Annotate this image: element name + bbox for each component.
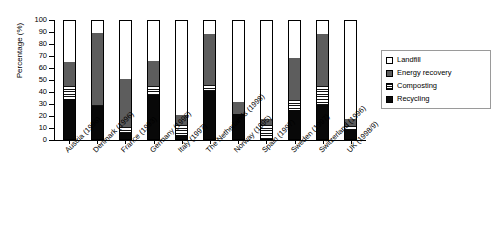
legend-label: Recycling: [397, 95, 430, 103]
bar-segment-landfill: [233, 21, 244, 102]
bar-segment-recycling: [120, 133, 131, 139]
stacked-bar[interactable]: [232, 20, 245, 140]
bar-segment-landfill: [204, 21, 215, 34]
bar-column[interactable]: [175, 20, 188, 140]
x-tick-mark: [351, 140, 352, 144]
legend-label: Landfill: [397, 56, 421, 64]
bar-segment-landfill: [64, 21, 75, 62]
stacked-bar[interactable]: [63, 20, 76, 140]
bar-column[interactable]: [91, 20, 104, 140]
legend-swatch-icon: [386, 96, 393, 103]
bar-column[interactable]: [147, 20, 160, 140]
bar-segment-landfill: [148, 21, 159, 61]
y-tick-mark: [49, 32, 54, 33]
y-tick-label: 10: [39, 124, 47, 131]
bar-segment-energy-recovery: [92, 33, 103, 105]
plot-area: [55, 20, 365, 140]
bar-segment-composting: [176, 125, 187, 136]
y-tick-mark: [49, 80, 54, 81]
x-tick-mark: [266, 140, 267, 144]
legend-item[interactable]: Composting: [386, 81, 486, 91]
stacked-bar-chart: Percentage (%) 0102030405060708090100 Au…: [0, 0, 497, 240]
y-tick-mark: [49, 104, 54, 105]
bar-column[interactable]: [63, 20, 76, 140]
bar-segment-landfill: [289, 21, 300, 58]
stacked-bar[interactable]: [175, 20, 188, 140]
bar-segment-energy-recovery: [176, 115, 187, 124]
chart-legend: LandfillEnergy recoveryCompostingRecycli…: [381, 50, 491, 109]
bar-segment-composting: [289, 100, 300, 109]
stacked-bar[interactable]: [91, 20, 104, 140]
bar-segment-composting: [317, 86, 328, 105]
x-tick-mark: [182, 140, 183, 144]
bar-segment-energy-recovery: [317, 34, 328, 86]
bar-group: [55, 20, 365, 140]
bar-segment-recycling: [176, 135, 187, 139]
legend-item[interactable]: Recycling: [386, 94, 486, 104]
x-tick-mark: [295, 140, 296, 144]
y-tick-label: 100: [34, 16, 47, 23]
y-tick-mark: [49, 92, 54, 93]
bar-segment-landfill: [261, 21, 272, 119]
y-tick-label: 50: [39, 76, 47, 83]
bar-segment-recycling: [148, 95, 159, 139]
legend-item[interactable]: Energy recovery: [386, 68, 486, 78]
y-tick-label: 80: [39, 40, 47, 47]
bar-segment-energy-recovery: [120, 79, 131, 127]
x-tick-mark: [97, 140, 98, 144]
y-tick-mark: [49, 20, 54, 21]
y-tick-label: 90: [39, 28, 47, 35]
y-tick-label: 0: [43, 136, 47, 143]
y-tick-mark: [49, 128, 54, 129]
y-tick-label: 60: [39, 64, 47, 71]
x-tick-mark: [154, 140, 155, 144]
stacked-bar[interactable]: [260, 20, 273, 140]
bar-segment-recycling: [204, 91, 215, 139]
y-tick-label: 70: [39, 52, 47, 59]
y-tick-mark: [49, 68, 54, 69]
bar-column[interactable]: [316, 20, 329, 140]
legend-swatch-icon: [386, 83, 393, 90]
bar-segment-landfill: [345, 21, 356, 119]
legend-swatch-icon: [386, 70, 393, 77]
bar-column[interactable]: [344, 20, 357, 140]
bar-segment-composting: [148, 86, 159, 95]
bar-segment-landfill: [120, 21, 131, 79]
legend-swatch-icon: [386, 57, 393, 64]
bar-segment-composting: [64, 86, 75, 99]
x-tick-mark: [238, 140, 239, 144]
y-tick-mark: [49, 116, 54, 117]
x-tick-mark: [69, 140, 70, 144]
bar-segment-energy-recovery: [64, 62, 75, 86]
bar-column[interactable]: [232, 20, 245, 140]
bar-segment-recycling: [64, 99, 75, 139]
stacked-bar[interactable]: [119, 20, 132, 140]
stacked-bar[interactable]: [203, 20, 216, 140]
bar-column[interactable]: [288, 20, 301, 140]
bar-column[interactable]: [260, 20, 273, 140]
bar-segment-energy-recovery: [289, 58, 300, 100]
bar-segment-composting: [261, 125, 272, 139]
stacked-bar[interactable]: [288, 20, 301, 140]
y-tick-mark: [49, 56, 54, 57]
stacked-bar[interactable]: [316, 20, 329, 140]
y-tick-label: 30: [39, 100, 47, 107]
bar-segment-energy-recovery: [345, 119, 356, 126]
bar-segment-recycling: [317, 105, 328, 139]
stacked-bar[interactable]: [344, 20, 357, 140]
bar-segment-landfill: [317, 21, 328, 34]
bar-column[interactable]: [203, 20, 216, 140]
x-tick-mark: [125, 140, 126, 144]
bar-segment-recycling: [233, 114, 244, 139]
bar-segment-recycling: [289, 110, 300, 140]
legend-item[interactable]: Landfill: [386, 55, 486, 65]
bar-column[interactable]: [119, 20, 132, 140]
bar-segment-energy-recovery: [204, 34, 215, 85]
x-tick-mark: [210, 140, 211, 144]
stacked-bar[interactable]: [147, 20, 160, 140]
y-tick-label: 20: [39, 112, 47, 119]
legend-label: Energy recovery: [397, 69, 452, 77]
bar-segment-landfill: [176, 21, 187, 115]
y-tick-label: 40: [39, 88, 47, 95]
x-tick-mark: [323, 140, 324, 144]
